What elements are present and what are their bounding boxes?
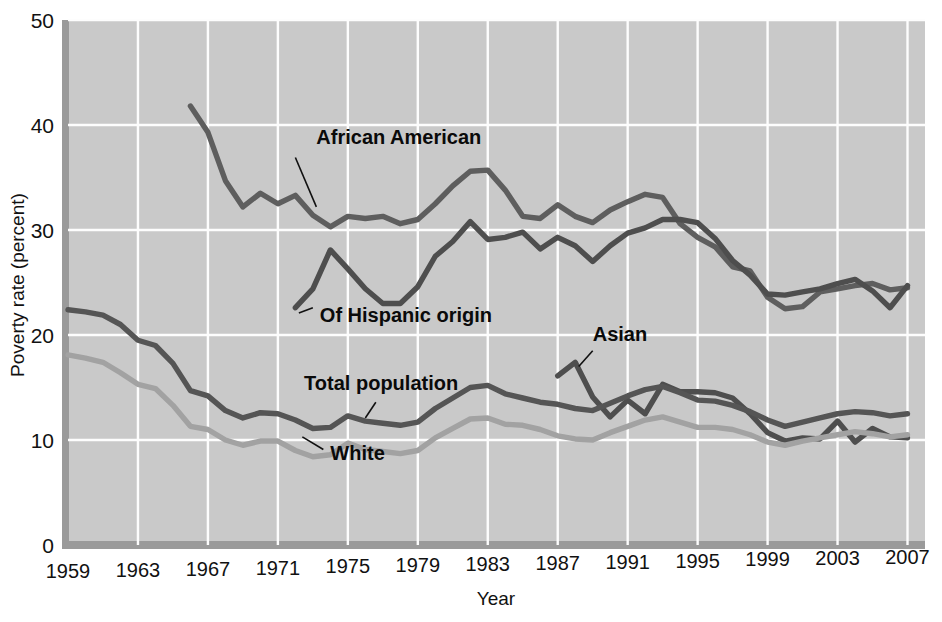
y-tick-label: 10 xyxy=(31,429,54,452)
x-tick-label: 2007 xyxy=(885,546,930,568)
x-tick-label: 1971 xyxy=(256,557,301,579)
series-label-asian: Asian xyxy=(593,323,647,345)
x-axis-title: Year xyxy=(477,588,516,609)
x-tick-label: 1999 xyxy=(745,548,790,570)
y-tick-label: 50 xyxy=(31,9,54,32)
x-tick-label: 1991 xyxy=(605,551,650,573)
series-label-of-hispanic-origin: Of Hispanic origin xyxy=(320,304,492,326)
y-axis-spine xyxy=(62,20,69,548)
x-tick-label: 1995 xyxy=(675,550,720,572)
x-tick-label: 2003 xyxy=(815,547,860,569)
plot-area-background xyxy=(68,20,925,547)
x-tick-label: 1987 xyxy=(535,552,580,574)
series-label-total-population: Total population xyxy=(304,372,458,394)
x-tick-label: 1967 xyxy=(186,558,231,580)
x-tick-label: 1979 xyxy=(396,554,441,576)
x-axis-spine xyxy=(62,541,925,549)
y-tick-label: 20 xyxy=(31,324,54,347)
y-tick-label: 0 xyxy=(42,534,54,557)
x-tick-label: 1983 xyxy=(466,553,511,575)
y-axis-tick-labels: 01020304050 xyxy=(31,9,54,557)
x-tick-label: 1959 xyxy=(46,560,91,582)
x-axis-tick-labels: 1959196319671971197519791983198719911995… xyxy=(46,546,930,582)
y-axis-title: Poverty rate (percent) xyxy=(7,193,28,377)
y-tick-label: 30 xyxy=(31,219,54,242)
series-label-african-american: African American xyxy=(316,126,481,148)
x-tick-label: 1975 xyxy=(326,555,371,577)
poverty-rate-chart-figure: 01020304050 1959196319671971197519791983… xyxy=(0,0,942,622)
x-tick-label: 1963 xyxy=(116,559,161,581)
y-tick-label: 40 xyxy=(31,114,54,137)
series-label-white: White xyxy=(330,442,384,464)
chart-svg: 01020304050 1959196319671971197519791983… xyxy=(0,0,942,622)
